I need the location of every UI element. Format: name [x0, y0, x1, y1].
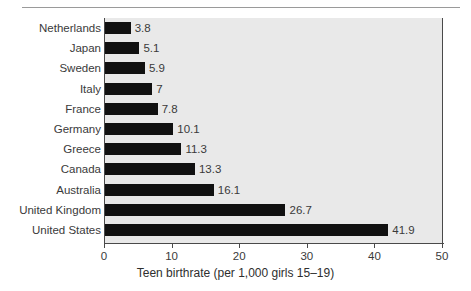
category-label: Netherlands [0, 22, 101, 34]
y-axis-category-labels: NetherlandsJapanSwedenItalyFranceGermany… [0, 18, 101, 243]
bar [105, 224, 388, 236]
bar [105, 204, 285, 216]
x-tick-label: 20 [219, 250, 259, 263]
bar-value-label: 16.1 [218, 184, 240, 196]
bar-value-label: 5.9 [149, 62, 165, 74]
bar-value-label: 3.8 [135, 22, 151, 34]
category-label: Greece [0, 143, 101, 155]
category-label: Germany [0, 123, 101, 135]
category-label: Australia [0, 184, 101, 196]
bar-value-label: 7 [156, 83, 162, 95]
category-label: Canada [0, 163, 101, 175]
bar [105, 83, 152, 95]
bar-value-label: 41.9 [392, 224, 414, 236]
bar-value-label: 26.7 [289, 204, 311, 216]
bar-value-label: 5.1 [143, 42, 159, 54]
bar-value-label: 11.3 [185, 143, 207, 155]
bar [105, 143, 181, 155]
bar-value-label: 10.1 [177, 123, 199, 135]
x-axis-line [104, 243, 444, 244]
chart-figure: NetherlandsJapanSwedenItalyFranceGermany… [0, 0, 471, 291]
x-tick-mark [374, 243, 375, 248]
x-tick-label: 0 [84, 250, 124, 263]
category-label: Italy [0, 83, 101, 95]
x-tick-mark [442, 243, 443, 248]
bar [105, 42, 139, 54]
category-label: United States [0, 224, 101, 236]
x-tick-label: 50 [422, 250, 462, 263]
x-tick-mark [239, 243, 240, 248]
category-label: Japan [0, 42, 101, 54]
bar-value-label: 7.8 [162, 103, 178, 115]
x-tick-mark [307, 243, 308, 248]
bars-layer: 3.85.15.977.810.111.313.316.126.741.9 [105, 18, 443, 243]
x-tick-label: 10 [152, 250, 192, 263]
bar-value-label: 13.3 [199, 163, 221, 175]
bar [105, 123, 173, 135]
bar [105, 22, 131, 34]
x-tick-label: 30 [287, 250, 327, 263]
category-label: France [0, 103, 101, 115]
x-tick-mark [172, 243, 173, 248]
bar [105, 62, 145, 74]
category-label: United Kingdom [0, 204, 101, 216]
x-axis-title: Teen birthrate (per 1,000 girls 15–19) [0, 266, 471, 280]
bar [105, 103, 158, 115]
x-tick-mark [104, 243, 105, 248]
bar [105, 163, 195, 175]
bar [105, 184, 214, 196]
x-tick-label: 40 [354, 250, 394, 263]
top-divider-rule [22, 7, 460, 8]
category-label: Sweden [0, 62, 101, 74]
